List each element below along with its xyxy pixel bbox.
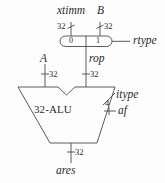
wire-itype-control	[103, 93, 115, 105]
alu-datapath-diagram: xtimm 32 B 32 0 1 rtype rop 32 A 32 32-A…	[0, 0, 165, 183]
alu-body	[18, 87, 115, 143]
diagram-wires	[0, 0, 165, 183]
